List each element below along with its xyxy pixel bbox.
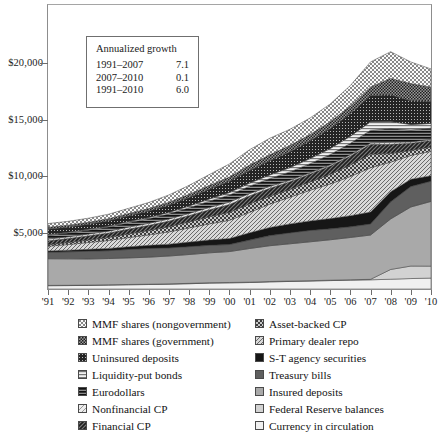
x-axis-label: '10 [425, 296, 437, 307]
x-axis-label: '97 [163, 296, 175, 307]
chart-legend: MMF shares (nongovernment)MMF shares (go… [0, 316, 439, 435]
x-tick-mark [350, 290, 351, 295]
x-tick-mark [189, 290, 190, 295]
legend-label: MMF shares (nongovernment) [92, 318, 231, 330]
legend-item[interactable]: Nonfinancial CP [78, 401, 250, 417]
legend-item[interactable]: Financial CP [78, 418, 250, 434]
x-axis-label: '02 [263, 296, 275, 307]
legend-swatch-icon [78, 336, 87, 345]
x-tick-mark [270, 290, 271, 295]
y-axis-label: $10,000 [8, 170, 43, 181]
y-tick-mark [40, 63, 48, 64]
legend-item[interactable]: Treasury bills [255, 367, 437, 383]
stacked-area-chart: $20,000$15,000$10,000$5,000 '91'92'93'94… [0, 0, 439, 435]
inset-period: 2007–2010 [96, 72, 169, 85]
legend-item[interactable]: Eurodollars [78, 384, 250, 400]
legend-swatch-icon [78, 319, 87, 328]
legend-label: MMF shares (government) [92, 335, 214, 347]
legend-label: Federal Reserve balances [269, 403, 384, 415]
x-tick-mark [169, 290, 170, 295]
x-axis-label: '06 [344, 296, 356, 307]
x-axis-label: '91 [42, 296, 54, 307]
legend-item[interactable]: Currency in circulation [255, 418, 437, 434]
y-axis-label: $20,000 [8, 56, 43, 67]
legend-item[interactable]: Primary dealer repo [255, 333, 437, 349]
legend-label: Primary dealer repo [269, 335, 359, 347]
x-tick-mark [330, 290, 331, 295]
inset-period: 1991–2007 [96, 59, 169, 72]
legend-label: Asset-backed CP [269, 318, 347, 330]
x-tick-mark [109, 290, 110, 295]
x-axis-label: '96 [143, 296, 155, 307]
inset-table: 1991–20077.12007–20100.11991–20106.0 [96, 59, 189, 97]
legend-label: Financial CP [92, 420, 151, 432]
x-tick-mark [149, 290, 150, 295]
legend-swatch-icon [255, 387, 264, 396]
legend-column-right: Asset-backed CPPrimary dealer repoS-T ag… [255, 316, 437, 435]
inset-title: Annualized growth [96, 43, 189, 54]
x-tick-mark [229, 290, 230, 295]
legend-item[interactable]: Federal Reserve balances [255, 401, 437, 417]
y-axis-label: $5,000 [14, 227, 43, 238]
legend-item[interactable]: Insured deposits [255, 384, 437, 400]
legend-swatch-icon [78, 387, 87, 396]
x-axis-label: '00 [223, 296, 235, 307]
x-tick-mark [411, 290, 412, 295]
x-axis-label: '98 [183, 296, 195, 307]
inset-row: 2007–20100.1 [96, 72, 189, 85]
legend-item[interactable]: MMF shares (government) [78, 333, 250, 349]
x-axis-label: '05 [324, 296, 336, 307]
x-tick-mark [431, 290, 432, 295]
x-tick-mark [88, 290, 89, 295]
annualized-growth-inset: Annualized growth 1991–20077.12007–20100… [86, 36, 199, 108]
legend-swatch-icon [78, 353, 87, 362]
y-axis-label: $15,000 [8, 113, 43, 124]
x-axis-label: '03 [284, 296, 296, 307]
x-tick-mark [290, 290, 291, 295]
x-tick-mark [310, 290, 311, 295]
x-axis-label: '04 [304, 296, 316, 307]
inset-rate: 6.0 [169, 84, 189, 97]
legend-item[interactable]: MMF shares (nongovernment) [78, 316, 250, 332]
legend-label: Treasury bills [269, 369, 331, 381]
x-axis: '91'92'93'94'95'96'97'98'99'00'01'02'03'… [47, 290, 432, 310]
x-tick-mark [209, 290, 210, 295]
x-axis-label: '94 [102, 296, 114, 307]
x-axis-label: '09 [405, 296, 417, 307]
x-axis-label: '01 [243, 296, 255, 307]
legend-item[interactable]: Uninsured deposits [78, 350, 250, 366]
x-tick-mark [391, 290, 392, 295]
legend-item[interactable]: S-T agency securities [255, 350, 437, 366]
legend-swatch-icon [78, 421, 87, 430]
legend-label: Uninsured deposits [92, 352, 179, 364]
legend-label: Currency in circulation [269, 420, 374, 432]
legend-column-left: MMF shares (nongovernment)MMF shares (go… [78, 316, 250, 435]
legend-swatch-icon [255, 370, 264, 379]
x-axis-label: '95 [122, 296, 134, 307]
legend-label: S-T agency securities [269, 352, 366, 364]
legend-item[interactable]: Asset-backed CP [255, 316, 437, 332]
legend-swatch-icon [255, 421, 264, 430]
legend-label: Nonfinancial CP [92, 403, 168, 415]
legend-item[interactable]: Liquidity-put bonds [78, 367, 250, 383]
inset-period: 1991–2010 [96, 84, 169, 97]
x-tick-mark [129, 290, 130, 295]
legend-label: Eurodollars [92, 386, 145, 398]
x-tick-mark [371, 290, 372, 295]
legend-swatch-icon [255, 353, 264, 362]
y-tick-mark [40, 176, 48, 177]
x-tick-mark [68, 290, 69, 295]
legend-swatch-icon [78, 404, 87, 413]
legend-label: Liquidity-put bonds [92, 369, 182, 381]
inset-row: 1991–20106.0 [96, 84, 189, 97]
x-axis-label: '08 [384, 296, 396, 307]
legend-swatch-icon [255, 336, 264, 345]
legend-swatch-icon [78, 370, 87, 379]
inset-rate: 0.1 [169, 72, 189, 85]
legend-label: Insured deposits [269, 386, 343, 398]
y-tick-mark [40, 233, 48, 234]
x-axis-label: '93 [82, 296, 94, 307]
x-axis-label: '07 [364, 296, 376, 307]
x-tick-mark [250, 290, 251, 295]
inset-rate: 7.1 [169, 59, 189, 72]
